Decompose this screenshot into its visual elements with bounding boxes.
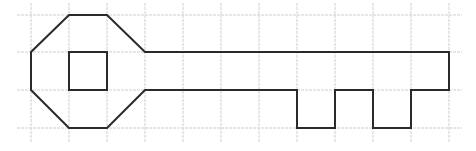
key-outline [31, 15, 449, 128]
key-grid-diagram [0, 0, 476, 151]
key-hole-square [69, 52, 107, 90]
grid-lines [17, 3, 462, 142]
